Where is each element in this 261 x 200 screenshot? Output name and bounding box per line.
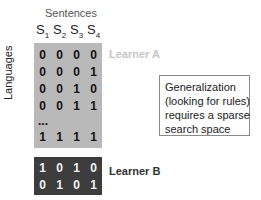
matrix-cell: 1 (68, 99, 85, 113)
matrix-cell: 1 (34, 130, 51, 144)
sentences-title: Sentences (45, 7, 97, 19)
matrix-cell: 0 (34, 48, 51, 62)
generalization-callout: Generalization (looking for rules) requi… (159, 75, 250, 136)
matrix-cell: 1 (51, 130, 68, 144)
matrix-cell: 0 (34, 82, 51, 96)
callout-line: requires a sparse (165, 108, 244, 122)
matrix-cell: 0 (51, 65, 68, 79)
callout-line: search space (165, 122, 244, 136)
matrix-row: 0 0 0 0 (34, 48, 102, 62)
matrix-cell: 1 (85, 130, 102, 144)
matrix-cell: 0 (51, 82, 68, 96)
matrix-row: 0 0 0 1 (34, 65, 102, 79)
sentence-header-1: S1 (36, 22, 49, 40)
sentence-header-3: S3 (70, 22, 83, 40)
learner-a-matrix: 0 0 0 0 0 0 0 1 0 0 1 0 0 0 1 1 ... 1 1 … (34, 43, 102, 148)
ellipsis: ... (38, 114, 48, 128)
learner-b-matrix: 1 0 1 0 0 1 0 1 (34, 157, 102, 195)
callout-line: Generalization (165, 80, 244, 94)
matrix-cell: 0 (34, 65, 51, 79)
matrix-cell: 0 (34, 99, 51, 113)
matrix-cell: 0 (51, 161, 68, 175)
matrix-cell: 0 (85, 82, 102, 96)
matrix-cell: 1 (85, 99, 102, 113)
learner-a-label: Learner A (109, 48, 160, 60)
matrix-cell: 0 (51, 48, 68, 62)
matrix-row: 0 0 1 1 (34, 99, 102, 113)
matrix-cell: 1 (68, 130, 85, 144)
languages-axis-label: Languages (2, 46, 14, 100)
matrix-cell: 1 (51, 178, 68, 192)
callout-line: (looking for rules) (165, 94, 244, 108)
matrix-cell: 0 (51, 99, 68, 113)
sentence-header-4: S4 (87, 22, 100, 40)
matrix-row: 0 0 1 0 (34, 82, 102, 96)
matrix-cell: 0 (68, 178, 85, 192)
sentence-header-2: S2 (53, 22, 66, 40)
matrix-cell: 1 (68, 82, 85, 96)
matrix-cell: 0 (68, 65, 85, 79)
matrix-cell: 1 (85, 178, 102, 192)
matrix-cell: 0 (68, 48, 85, 62)
matrix-row: 1 1 1 1 (34, 130, 102, 144)
matrix-cell: 1 (34, 161, 51, 175)
matrix-cell: 1 (68, 161, 85, 175)
matrix-cell: 0 (85, 161, 102, 175)
learner-b-label: Learner B (109, 165, 160, 177)
matrix-row: 1 0 1 0 (34, 161, 102, 175)
matrix-cell: 1 (85, 65, 102, 79)
matrix-cell: 0 (34, 178, 51, 192)
matrix-cell: 0 (85, 48, 102, 62)
matrix-row: 0 1 0 1 (34, 178, 102, 192)
